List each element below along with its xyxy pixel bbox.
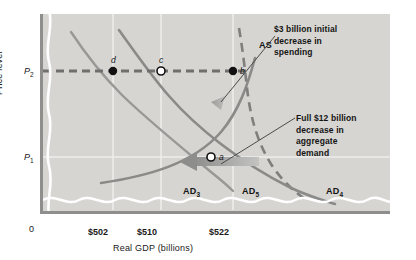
annotation-initial-decrease: $3 billion initial decrease in spending [274, 24, 337, 59]
curve-label-ad4: AD4 [326, 186, 343, 198]
figure-root: AS AD3 AD5 AD4 d c b a $3 billion initia… [0, 0, 416, 260]
curve-label-ad5: AD5 [242, 186, 259, 198]
origin-label: 0 [29, 224, 34, 234]
curve-label-ad3: AD3 [183, 186, 200, 198]
y-tick-p2: P2 [24, 66, 34, 78]
point-label-c: c [159, 55, 163, 65]
y-tick-p1: P1 [24, 152, 34, 164]
y-tick-p1-sub: 1 [30, 157, 34, 164]
point-c [157, 67, 165, 75]
curve-label-ad4-text: AD [326, 186, 339, 196]
curve-label-ad3-text: AD [183, 186, 196, 196]
curve-label-ad3-sub: 3 [196, 191, 200, 198]
annotation-full-decrease: Full $12 billion decrease in aggregate d… [296, 113, 357, 159]
point-label-b: b [240, 66, 245, 76]
x-tick-510: $510 [137, 227, 157, 237]
y-axis-label: Price level [0, 51, 4, 95]
curve-label-ad5-text: AD [242, 186, 255, 196]
point-a [207, 153, 215, 161]
point-label-d: d [111, 55, 116, 65]
point-d [109, 67, 117, 75]
curve-label-as: AS [259, 40, 272, 50]
x-tick-502: $502 [88, 227, 108, 237]
point-b [229, 67, 237, 75]
y-tick-p2-sub: 2 [30, 71, 34, 78]
x-axis-label: Real GDP (billions) [113, 243, 193, 253]
curve-label-as-text: AS [259, 40, 272, 50]
point-label-a: a [219, 152, 224, 162]
x-tick-522: $522 [209, 227, 229, 237]
curve-label-ad5-sub: 5 [255, 191, 259, 198]
curve-label-ad4-sub: 4 [339, 191, 343, 198]
